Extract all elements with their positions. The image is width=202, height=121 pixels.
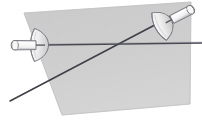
- illustration-canvas: Two crossed fencing foils over a gray qu…: [0, 0, 202, 121]
- fencing-foils-illustration: Two crossed fencing foils over a gray qu…: [0, 0, 202, 121]
- left-foil-handle: [11, 41, 36, 50]
